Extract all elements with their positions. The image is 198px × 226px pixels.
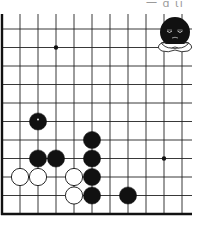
white-stone bbox=[65, 187, 82, 204]
last-move-marker-icon bbox=[37, 119, 39, 121]
white-stone bbox=[65, 168, 82, 185]
star-point-icon bbox=[162, 156, 166, 160]
mascot-black-stone-character bbox=[158, 17, 191, 52]
black-stone bbox=[83, 150, 100, 167]
black-stone bbox=[29, 150, 46, 167]
black-stone bbox=[119, 187, 136, 204]
black-stone bbox=[47, 150, 64, 167]
white-stone bbox=[29, 168, 46, 185]
black-stone bbox=[83, 168, 100, 185]
black-stone bbox=[29, 113, 46, 130]
go-board[interactable] bbox=[0, 0, 198, 226]
star-point-icon bbox=[54, 45, 58, 49]
black-stone bbox=[83, 131, 100, 148]
white-stone bbox=[11, 168, 28, 185]
black-stone bbox=[83, 187, 100, 204]
